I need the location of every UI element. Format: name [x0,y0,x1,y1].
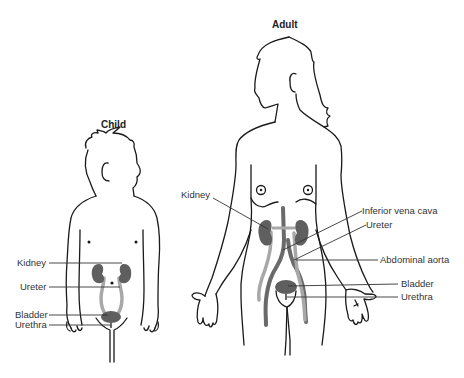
child-torso-left [66,196,96,328]
child-nipple-left [88,241,91,244]
child-bladder [101,311,121,323]
adult-kidney-left [258,220,272,246]
child-kidney-left [92,264,104,283]
child-ear [102,163,109,181]
adult-torso-left [241,165,252,345]
child-navel [110,281,113,284]
adult-ear [290,73,296,92]
child-ureter-left [101,278,106,315]
adult-leader-kidney [213,198,268,229]
adult-hair-back [289,37,330,127]
adult-label-bladder: Bladder [401,278,434,289]
child-hip-right [114,318,127,362]
adult-ureter-right [294,233,305,320]
adult-groin-right [287,291,296,355]
urinary-system-diagram [0,0,464,378]
adult-figure [192,37,398,355]
adult-title: Adult [272,19,298,30]
adult-nipple-left [260,189,262,191]
adult-label-abdominal-aorta: Abdominal aorta [380,254,449,265]
child-head-back [86,150,96,196]
child-torso-right [134,196,160,328]
child-ureter-right [117,278,122,315]
adult-label-inferior-vena-cava: Inferior vena cava [362,205,438,216]
adult-hand-right [346,289,376,324]
child-label-kidney: Kidney [17,257,46,268]
child-kidney-right [119,264,131,283]
adult-label-urethra: Urethra [401,291,433,302]
adult-forearm-left [216,230,251,294]
adult-breast-left [251,198,278,207]
child-label-ureter: Ureter [20,281,46,292]
adult-leader-inferior-vena-cava [283,211,362,250]
child-arm-left [79,230,82,325]
adult-breast-right [296,199,316,204]
child-title: Child [101,119,126,130]
adult-nipple-right [307,189,309,191]
adult-head-outline [254,37,289,122]
adult-label-kidney: Kidney [181,189,210,200]
adult-groin-left [276,291,287,355]
adult-palm-right [354,300,358,306]
adult-hand-left [192,293,218,327]
adult-label-ureter: Ureter [366,219,392,230]
adult-kidney-right [295,220,309,246]
adult-bladder [275,280,297,294]
child-figure [49,127,160,362]
child-arm-right [141,230,144,325]
child-nipple-right [135,241,138,244]
child-head-outline [85,127,140,196]
child-label-urethra: Urethra [15,319,47,330]
